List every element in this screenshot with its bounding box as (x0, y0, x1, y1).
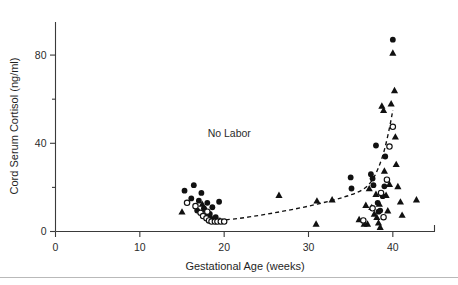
data-point-open-circle (370, 206, 375, 211)
data-point-filled-circle (209, 204, 215, 210)
x-tick-label: 40 (387, 241, 399, 253)
data-point-triangle (362, 202, 369, 208)
data-point-triangle (381, 167, 388, 173)
data-point-open-circle (193, 203, 198, 208)
data-point-open-circle (205, 209, 210, 214)
data-point-open-circle (390, 124, 395, 129)
series-triangle-markers (178, 49, 420, 230)
data-point-filled-circle (198, 190, 204, 196)
data-point-open-circle (184, 200, 189, 205)
data-point-triangle (397, 198, 404, 204)
data-point-filled-circle (371, 182, 377, 188)
data-point-triangle (313, 220, 320, 226)
footer-divider (0, 277, 458, 278)
data-point-triangle (329, 196, 336, 202)
data-point-filled-circle (191, 182, 197, 188)
data-point-filled-circle (382, 154, 388, 160)
y-axis-title: Cord Serum Cortisol (ng/ml) (8, 58, 20, 195)
y-tick-group (50, 55, 56, 231)
data-point-open-circle (378, 190, 383, 195)
data-point-triangle (313, 197, 320, 203)
data-point-triangle (375, 219, 382, 225)
data-point-filled-circle (377, 208, 383, 214)
data-point-triangle (384, 207, 391, 213)
data-point-triangle (392, 133, 399, 139)
data-point-open-circle (384, 177, 389, 182)
data-point-filled-circle (375, 200, 381, 206)
data-point-filled-circle (348, 175, 354, 181)
y-tick-label: 80 (35, 49, 47, 61)
data-point-filled-circle (368, 171, 374, 177)
data-point-filled-circle (390, 37, 396, 43)
y-tick-label-group: 04080 (35, 49, 47, 237)
x-tick-label: 0 (53, 241, 59, 253)
figure-container: 04080 010203040 No Labor Gestational Age… (0, 0, 458, 285)
data-point-triangle (413, 196, 420, 202)
y-tick-label: 40 (35, 137, 47, 149)
x-tick-label: 10 (134, 241, 146, 253)
x-tick-group (56, 232, 393, 238)
data-point-triangle (388, 100, 395, 106)
data-point-filled-circle (382, 183, 388, 189)
data-point-open-circle (381, 214, 386, 219)
data-point-triangle (394, 183, 401, 189)
data-point-triangle (393, 161, 400, 167)
data-point-open-circle (361, 218, 366, 223)
scatter-plot: 04080 010203040 No Labor Gestational Age… (0, 0, 458, 285)
y-tick-label: 0 (41, 225, 47, 237)
data-point-open-circle (387, 144, 392, 149)
x-tick-label-group: 010203040 (53, 241, 399, 253)
data-point-open-circle (221, 219, 226, 224)
data-point-triangle (275, 192, 282, 198)
annotation-group: No Labor (208, 127, 252, 139)
data-point-triangle (399, 211, 406, 217)
x-axis-title: Gestational Age (weeks) (185, 260, 304, 272)
data-point-filled-circle (373, 143, 379, 149)
data-point-triangle (378, 102, 385, 108)
data-point-filled-circle (216, 199, 222, 205)
chart-annotation: No Labor (208, 127, 252, 139)
data-point-filled-circle (204, 200, 210, 206)
data-point-filled-circle (349, 186, 355, 192)
x-tick-label: 30 (303, 241, 315, 253)
series-open-circle-markers (184, 124, 395, 224)
x-tick-label: 20 (218, 241, 230, 253)
data-point-filled-circle (182, 188, 188, 194)
data-point-triangle (391, 87, 398, 93)
data-point-filled-circle (196, 198, 202, 204)
data-point-triangle (178, 208, 185, 214)
data-point-triangle (389, 49, 396, 55)
